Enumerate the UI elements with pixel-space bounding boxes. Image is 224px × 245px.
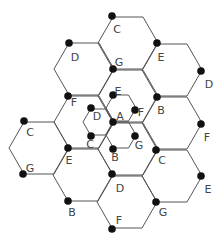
large-hex-cell xyxy=(142,97,202,149)
hex-cell-diagram: CDGEDFBFCGECEDBGFAEFDCGB xyxy=(0,0,224,245)
large-hex-cell xyxy=(97,176,157,228)
node-label: F xyxy=(116,214,122,227)
node-label: D xyxy=(116,182,124,195)
node-label: A xyxy=(116,110,124,123)
node-label: G xyxy=(26,162,35,175)
node-dot-icon xyxy=(20,117,28,125)
node-label: F xyxy=(138,106,144,119)
node-label: B xyxy=(111,151,119,164)
node-dot-icon xyxy=(197,67,205,75)
large-hex-cell xyxy=(142,44,202,96)
node-label: E xyxy=(205,183,212,196)
node-dot-icon xyxy=(108,170,116,178)
large-hex-cell xyxy=(142,150,202,202)
large-hex-cell xyxy=(98,70,158,122)
large-hex-grid xyxy=(9,17,202,228)
node-dot-icon xyxy=(108,225,116,233)
node-dot-icon xyxy=(153,93,161,101)
node-dot-icon xyxy=(153,39,161,47)
node-label: F xyxy=(204,131,210,144)
node-dot-icon xyxy=(108,12,116,20)
node-dot-icon xyxy=(65,39,73,47)
node-dot-icon xyxy=(64,197,72,205)
large-hex-cell xyxy=(98,17,158,69)
node-label: C xyxy=(158,154,166,167)
node-label: E xyxy=(158,51,165,64)
node-dot-icon xyxy=(197,172,205,180)
node-dot-icon xyxy=(64,144,72,152)
node-label: D xyxy=(93,110,101,123)
node-label: C xyxy=(113,23,121,36)
node-dot-icon xyxy=(197,120,205,128)
large-hex-cell xyxy=(53,149,113,201)
node-label: G xyxy=(159,206,168,219)
node-label: B xyxy=(157,104,165,117)
node-label: B xyxy=(68,206,76,219)
node-label: G xyxy=(115,56,124,69)
node-labels: CDGEDFBFCGECEDBGFAEFDCGB xyxy=(26,23,214,227)
large-hex-cell xyxy=(54,96,114,148)
large-hex-cell xyxy=(98,123,158,175)
large-hex-cell xyxy=(54,43,114,95)
node-label: C xyxy=(86,138,94,151)
node-label: G xyxy=(135,139,144,152)
node-label: E xyxy=(66,154,73,167)
node-label: C xyxy=(26,126,34,139)
large-hex-cell xyxy=(9,122,69,174)
node-label: E xyxy=(115,85,122,98)
node-label: D xyxy=(205,78,213,91)
node-label: D xyxy=(71,51,79,64)
node-label: F xyxy=(71,96,77,109)
